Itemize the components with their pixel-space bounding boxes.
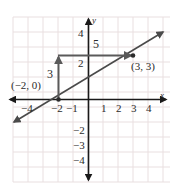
x-tick-label--2: −2 xyxy=(51,103,63,114)
run-label: 5 xyxy=(93,38,99,50)
y-tick-label-4: 4 xyxy=(78,28,84,39)
x-tick-label-1: 1 xyxy=(101,103,107,114)
point-marker-b xyxy=(131,53,136,58)
x-tick-label-4: 4 xyxy=(146,103,152,114)
y-tick-label-2: 2 xyxy=(78,58,84,69)
x-tick-label-2: 2 xyxy=(116,103,122,114)
x-tick-label-3: 3 xyxy=(131,103,137,114)
point-label-b: (3, 3) xyxy=(131,61,155,72)
y-tick-label--2: −2 xyxy=(73,125,85,136)
plot-canvas xyxy=(0,0,175,195)
y-tick-label--3: −3 xyxy=(73,140,85,151)
x-tick-label--1: −1 xyxy=(66,103,78,114)
rise-label: 3 xyxy=(47,68,53,80)
x-axis-label: x xyxy=(160,91,164,100)
point-label-a: (−2, 0) xyxy=(11,80,41,91)
coordinate-graph-figure: y x −4 −2 −1 1 2 3 4 4 2 −2 −3 −4 3 5 (−… xyxy=(0,0,175,195)
x-tick-label--4: −4 xyxy=(21,103,33,114)
y-tick-label--4: −4 xyxy=(73,155,85,166)
y-axis-label: y xyxy=(92,16,96,25)
